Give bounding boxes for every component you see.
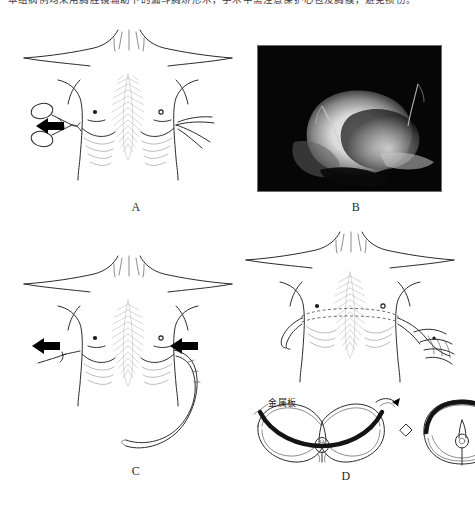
cross-section-after bbox=[424, 400, 475, 465]
dashed-bar-path bbox=[302, 309, 398, 323]
separator-diamond bbox=[400, 424, 412, 436]
panel-c-illustration bbox=[18, 248, 238, 463]
panel-a-illustration bbox=[18, 22, 238, 202]
surgeon-hand bbox=[398, 318, 454, 364]
panel-label-b: B bbox=[336, 200, 376, 215]
metal-plate-leader-line bbox=[252, 398, 282, 418]
panel-b-photograph bbox=[257, 45, 442, 192]
arrow-left-c bbox=[32, 338, 60, 354]
top-caption-text: 本组病例均采用胸腔镜辅助下的漏斗胸矫形术，手术中需注意保护心包及胸膜，避免损伤。 bbox=[8, 0, 416, 6]
figure-root: 本组病例均采用胸腔镜辅助下的漏斗胸矫形术，手术中需注意保护心包及胸膜，避免损伤。 bbox=[0, 0, 475, 519]
rotation-arrow bbox=[376, 398, 400, 407]
panel-label-d: D bbox=[326, 469, 366, 484]
guide-tube bbox=[122, 350, 201, 448]
forceps-right-tips bbox=[176, 117, 214, 148]
panel-label-a: A bbox=[116, 200, 156, 215]
top-caption-clipped: 本组病例均采用胸腔镜辅助下的漏斗胸矫形术，手术中需注意保护心包及胸膜，避免损伤。 bbox=[8, 0, 468, 7]
panel-label-c: C bbox=[116, 464, 156, 479]
panel-d-illustration-top bbox=[238, 228, 462, 388]
